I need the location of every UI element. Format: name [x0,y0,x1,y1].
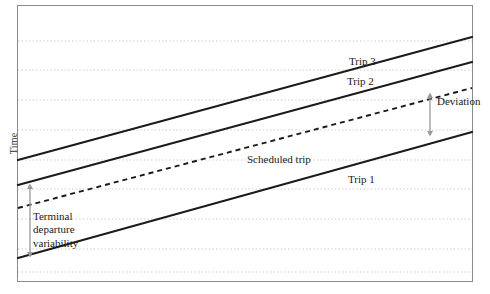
y-axis-title: Time [8,119,19,169]
annotation-line-3: variability [33,237,119,250]
annotation-line-2: departure [33,223,119,236]
series-label-trip-1: Trip 1 [348,174,375,186]
series-label-trip-3: Trip 3 [349,56,376,68]
annotation-deviation: Deviation [437,95,480,108]
annotation-line-1: Terminal [33,210,119,223]
trip-time-space-diagram: Time Trip 3 Trip 2 Scheduled trip Trip 1… [0,0,490,294]
series-label-scheduled-trip: Scheduled trip [247,154,311,166]
series-label-trip-2: Trip 2 [347,76,374,88]
annotation-terminal-departure-variability: Terminal departure variability [33,210,119,250]
